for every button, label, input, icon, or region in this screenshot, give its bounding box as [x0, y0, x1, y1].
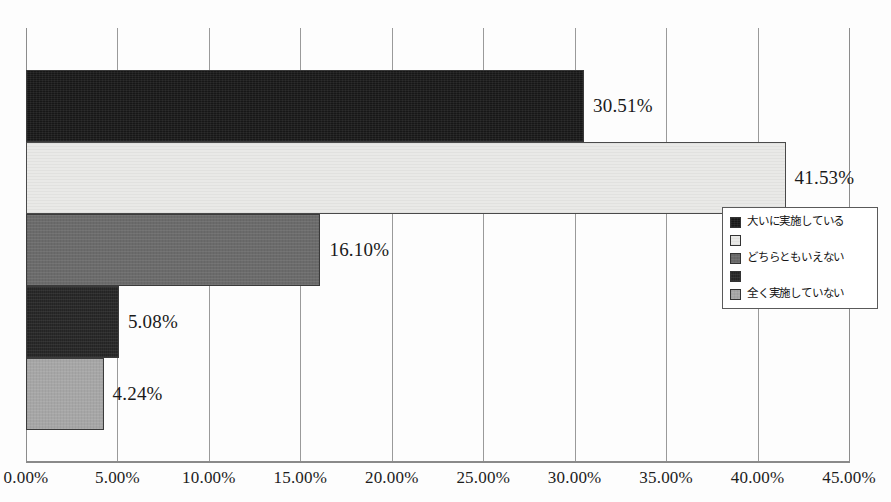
- chart-legend: 大いに実施しているどちらともいえない全く実施していない: [722, 207, 878, 309]
- bar-value-label: 41.53%: [795, 167, 855, 189]
- legend-item-1: 大いに実施している: [730, 213, 871, 231]
- bar-row: 30.51%: [26, 70, 849, 142]
- legend-swatch-icon: [730, 271, 741, 282]
- x-axis-line: [26, 461, 850, 463]
- legend-item-label: 大いに実施している: [747, 216, 844, 228]
- bar-value-label: 5.08%: [128, 311, 178, 333]
- bar-5: [26, 358, 104, 430]
- bar-3: [26, 214, 320, 286]
- x-tick-label: 10.00%: [182, 468, 236, 488]
- legend-item-label: 全く実施していない: [747, 288, 844, 300]
- bar-row: 41.53%: [26, 142, 849, 214]
- x-tick-label: 15.00%: [274, 468, 328, 488]
- x-tick-label: 5.00%: [95, 468, 140, 488]
- legend-item-5: 全く実施していない: [730, 285, 871, 303]
- x-tick-label: 35.00%: [639, 468, 693, 488]
- x-tick-label: 30.00%: [548, 468, 602, 488]
- bar-row: 4.24%: [26, 358, 849, 430]
- x-tick-label: 25.00%: [456, 468, 510, 488]
- bar-4: [26, 286, 119, 358]
- x-axis-tick-labels: 0.00%5.00%10.00%15.00%20.00%25.00%30.00%…: [0, 468, 891, 498]
- legend-item-3: どちらともいえない: [730, 249, 871, 267]
- legend-swatch-icon: [730, 289, 741, 300]
- chart-canvas: 30.51%41.53%16.10%5.08%4.24% 0.00%5.00%1…: [0, 0, 891, 502]
- legend-item-4: [730, 267, 871, 285]
- x-tick-label: 0.00%: [4, 468, 49, 488]
- x-tick-label: 40.00%: [731, 468, 785, 488]
- legend-item-label: どちらともいえない: [747, 252, 844, 264]
- bar-value-label: 30.51%: [593, 95, 653, 117]
- x-tick-label: 20.00%: [365, 468, 419, 488]
- bar-2: [26, 142, 786, 214]
- bar-value-label: 4.24%: [113, 383, 163, 405]
- legend-swatch-icon: [730, 217, 741, 228]
- legend-swatch-icon: [730, 253, 741, 264]
- bar-value-label: 16.10%: [329, 239, 389, 261]
- legend-item-2: [730, 231, 871, 249]
- x-tick-label: 45.00%: [822, 468, 876, 488]
- bar-1: [26, 70, 584, 142]
- legend-swatch-icon: [730, 235, 741, 246]
